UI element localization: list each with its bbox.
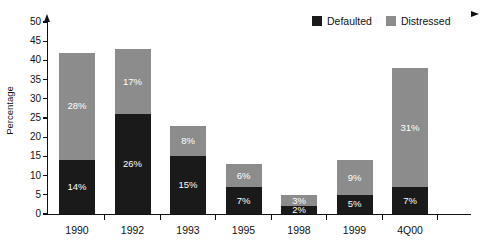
x-axis-category-label: 1998: [272, 224, 326, 236]
bar-segment-defaulted[interactable]: 14%: [59, 160, 95, 214]
bar-value-label: 17%: [123, 77, 142, 87]
bar-value-label: 26%: [123, 159, 142, 169]
x-axis-tick: [160, 215, 161, 220]
bar-segment-defaulted[interactable]: 7%: [226, 187, 262, 214]
bar-segment-distressed[interactable]: 28%: [59, 53, 95, 161]
bar-value-label: 3%: [292, 196, 306, 206]
x-axis-tick: [104, 215, 105, 220]
y-axis-tick-label: 15: [30, 151, 41, 161]
bar-segment-defaulted[interactable]: 15%: [170, 156, 206, 214]
bar-group[interactable]: 2%3%: [281, 195, 317, 214]
y-axis-tick: [43, 156, 48, 157]
plot-area: 05101520253035404550 14%28%26%17%15%8%7%…: [47, 14, 480, 215]
bar-segment-defaulted[interactable]: 2%: [281, 206, 317, 214]
bar-group[interactable]: 14%28%: [59, 53, 95, 214]
bar-segment-defaulted[interactable]: 5%: [337, 195, 373, 214]
y-axis-tick: [43, 21, 48, 22]
y-axis-tick-label: 25: [30, 113, 41, 123]
y-axis-tick: [43, 194, 48, 195]
bar-value-label: 5%: [348, 199, 362, 209]
x-axis-tick: [326, 215, 327, 220]
x-axis-tick: [437, 215, 438, 220]
y-axis-tick-label: 5: [35, 190, 41, 200]
bar-value-label: 28%: [67, 101, 86, 111]
bar-segment-distressed[interactable]: 31%: [392, 68, 428, 187]
y-axis-line: [47, 22, 48, 215]
y-axis-tick: [43, 60, 48, 61]
x-axis-line: [47, 214, 471, 215]
bar-segment-defaulted[interactable]: 7%: [392, 187, 428, 214]
x-axis-category-label: 4Q00: [383, 224, 437, 236]
y-axis-tick-label: 40: [30, 55, 41, 65]
bar-segment-distressed[interactable]: 9%: [337, 160, 373, 195]
bar-group[interactable]: 26%17%: [115, 49, 151, 214]
stacked-bar-chart: Defaulted Distressed Percentage 05101520…: [0, 0, 488, 243]
bar-value-label: 2%: [292, 205, 306, 215]
bar-segment-distressed[interactable]: 3%: [281, 195, 317, 207]
y-axis-tick: [43, 98, 48, 99]
y-axis-tick-label: 30: [30, 94, 41, 104]
y-axis-tick-label: 20: [30, 132, 41, 142]
bar-value-label: 31%: [400, 123, 419, 133]
y-axis-tick: [43, 137, 48, 138]
y-axis-tick-labels: 05101520253035404550: [19, 14, 41, 215]
x-axis-category-label: 1992: [106, 224, 160, 236]
y-axis-title: Percentage: [4, 71, 15, 151]
x-axis-category-label: 1999: [328, 224, 382, 236]
bar-segment-distressed[interactable]: 8%: [170, 126, 206, 157]
y-axis-tick-label: 10: [30, 171, 41, 181]
bar-value-label: 6%: [237, 171, 251, 181]
x-axis-category-label: 1995: [217, 224, 271, 236]
y-axis-tick-label: 0: [35, 209, 41, 219]
x-axis-arrow-icon: [471, 11, 479, 17]
y-axis-tick: [43, 213, 48, 214]
x-axis-tick: [382, 215, 383, 220]
bar-value-label: 7%: [403, 196, 417, 206]
bar-group[interactable]: 7%6%: [226, 164, 262, 214]
x-axis-tick: [271, 215, 272, 220]
bar-segment-defaulted[interactable]: 26%: [115, 114, 151, 214]
bar-value-label: 15%: [178, 180, 197, 190]
y-axis-tick: [43, 175, 48, 176]
bar-value-label: 9%: [348, 173, 362, 183]
y-axis-tick: [43, 41, 48, 42]
bar-value-label: 14%: [67, 182, 86, 192]
y-axis-tick: [43, 79, 48, 80]
y-axis-tick-label: 35: [30, 75, 41, 85]
y-axis-tick-label: 50: [30, 17, 41, 27]
bar-segment-distressed[interactable]: 6%: [226, 164, 262, 187]
bar-group[interactable]: 5%9%: [337, 160, 373, 214]
x-axis-category-label: 1990: [50, 224, 104, 236]
y-axis-tick-label: 45: [30, 36, 41, 46]
x-axis-tick: [215, 215, 216, 220]
bar-value-label: 8%: [181, 136, 195, 146]
bar-value-label: 7%: [237, 196, 251, 206]
bar-segment-distressed[interactable]: 17%: [115, 49, 151, 114]
x-axis-category-label: 1993: [161, 224, 215, 236]
y-axis-tick: [43, 117, 48, 118]
bar-group[interactable]: 7%31%: [392, 68, 428, 214]
bar-group[interactable]: 15%8%: [170, 126, 206, 214]
